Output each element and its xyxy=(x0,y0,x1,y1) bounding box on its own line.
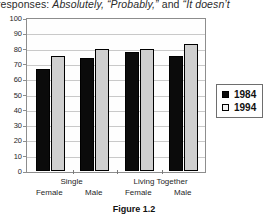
clipped-text-mid: and xyxy=(162,0,180,10)
y-axis-tick: 70 xyxy=(0,60,26,70)
y-axis-tick: 90 xyxy=(0,29,26,39)
y-axis-tick: 60 xyxy=(0,75,26,85)
y-axis-tick-label: 80 xyxy=(14,45,26,55)
y-axis-tick: 50 xyxy=(0,91,26,101)
y-axis-tick: 100 xyxy=(0,14,26,24)
y-axis-tick-label: 50 xyxy=(14,91,26,101)
y-axis-tick: 40 xyxy=(0,106,26,116)
y-axis-tick-label: 30 xyxy=(14,121,26,131)
clipped-text-italic-2: “Probably,” xyxy=(107,0,159,10)
legend-item: 1984 xyxy=(222,88,256,101)
y-axis-tick-label: 40 xyxy=(14,106,26,116)
bar xyxy=(36,69,50,172)
legend-swatch-icon xyxy=(222,104,229,111)
clipped-text-italic-3: “It doesn’t xyxy=(183,0,230,10)
legend-label: 1984 xyxy=(234,88,256,101)
y-axis-tick: 10 xyxy=(0,152,26,162)
bar xyxy=(169,56,183,171)
bar xyxy=(51,56,65,171)
plot-area xyxy=(26,18,206,173)
y-axis-tick-label: 20 xyxy=(14,136,26,146)
clipped-text-italic-1: Absolutely, xyxy=(52,0,104,10)
y-axis-tick-label: 90 xyxy=(14,29,26,39)
y-axis-tick-label: 0 xyxy=(18,167,26,177)
y-axis: 1009080706050403020100 xyxy=(0,18,26,173)
x-axis-group-label: Single xyxy=(22,177,122,186)
legend-swatch-icon xyxy=(222,91,229,98)
y-axis-tick: 0 xyxy=(0,167,26,177)
y-axis-tick: 30 xyxy=(0,121,26,131)
y-axis-tick-label: 100 xyxy=(9,14,26,24)
bar-group xyxy=(28,20,73,171)
figure-caption: Figure 1.2 xyxy=(0,204,268,214)
legend: 19841994 xyxy=(216,84,263,118)
clipped-body-text: ed responses: Absolutely, “Probably,” an… xyxy=(0,0,268,12)
bar-chart: 1009080706050403020100 SingleFemaleMaleL… xyxy=(0,14,268,219)
bar-series-container xyxy=(28,20,204,171)
y-axis-tick: 20 xyxy=(0,136,26,146)
y-axis-tick-label: 10 xyxy=(14,152,26,162)
bar xyxy=(80,58,94,171)
bar xyxy=(140,49,154,171)
clipped-text-before: ed responses: xyxy=(0,0,49,10)
bar-group xyxy=(162,20,207,171)
bar xyxy=(125,52,139,171)
plot-wrap xyxy=(26,18,206,173)
y-axis-tick-label: 60 xyxy=(14,75,26,85)
y-axis-tick: 80 xyxy=(0,45,26,55)
bar-group xyxy=(117,20,162,171)
y-axis-tick-label: 70 xyxy=(14,60,26,70)
bar xyxy=(184,44,198,171)
x-axis-sub-label: Male xyxy=(153,188,213,197)
bar xyxy=(95,49,109,171)
x-axis-group-label: Living Together xyxy=(111,177,211,186)
figure-page: ed responses: Absolutely, “Probably,” an… xyxy=(0,0,268,219)
bar-group xyxy=(73,20,118,171)
legend-label: 1994 xyxy=(234,101,256,114)
legend-item: 1994 xyxy=(222,101,256,114)
